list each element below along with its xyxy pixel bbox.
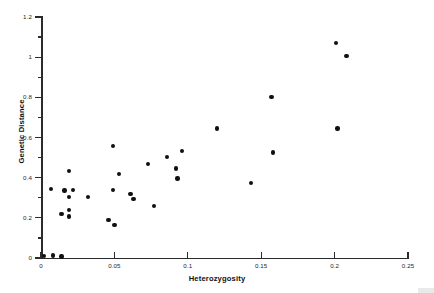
data-point bbox=[117, 172, 121, 176]
x-tick-label: 0 bbox=[26, 262, 56, 269]
data-point bbox=[271, 150, 275, 154]
data-point bbox=[59, 212, 63, 216]
data-point bbox=[249, 181, 253, 185]
data-point bbox=[335, 126, 339, 130]
data-point bbox=[111, 188, 115, 192]
x-tick-label: 0.15 bbox=[246, 262, 276, 269]
y-axis-title: Genetic Distance bbox=[17, 72, 26, 192]
x-tick-label: 0.1 bbox=[173, 262, 203, 269]
data-point bbox=[215, 126, 219, 130]
y-tick-label: 0.2 bbox=[6, 214, 32, 221]
data-point bbox=[334, 41, 338, 45]
data-point bbox=[49, 187, 53, 191]
x-tick-label: 0.2 bbox=[320, 262, 350, 269]
data-point bbox=[67, 214, 71, 218]
data-point bbox=[62, 188, 66, 192]
corner-artifact bbox=[418, 288, 434, 293]
data-point bbox=[180, 149, 184, 153]
x-axis-title: Heterozygosity bbox=[0, 274, 434, 283]
y-tick-label: 1.2 bbox=[6, 13, 32, 20]
data-point bbox=[128, 192, 132, 196]
data-point bbox=[269, 95, 273, 99]
data-point bbox=[67, 208, 71, 212]
data-point bbox=[86, 195, 90, 199]
data-point bbox=[344, 54, 348, 58]
data-point bbox=[59, 254, 63, 258]
y-tick-label: 1 bbox=[6, 53, 32, 60]
data-point bbox=[67, 195, 71, 199]
y-tick-label: 0 bbox=[6, 254, 32, 261]
data-point bbox=[67, 169, 71, 173]
data-point bbox=[51, 253, 55, 257]
data-point bbox=[131, 197, 135, 201]
scatter-plot-figure: 00.20.40.60.811.2 00.050.10.150.20.25 He… bbox=[0, 0, 434, 293]
data-point bbox=[106, 218, 110, 222]
data-point bbox=[146, 162, 150, 166]
data-point bbox=[152, 204, 156, 208]
x-tick-label: 0.25 bbox=[393, 262, 423, 269]
data-point bbox=[175, 176, 179, 180]
data-point bbox=[71, 188, 75, 192]
data-point bbox=[174, 166, 178, 170]
data-point bbox=[111, 144, 115, 148]
data-point bbox=[112, 223, 116, 227]
data-point bbox=[42, 254, 46, 258]
data-points-layer bbox=[41, 17, 408, 258]
data-point bbox=[165, 155, 169, 159]
x-tick-label: 0.05 bbox=[99, 262, 129, 269]
